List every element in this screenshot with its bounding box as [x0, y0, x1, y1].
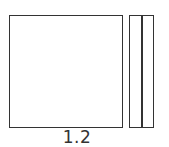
side-view-divider [141, 15, 143, 128]
front-view-square [9, 15, 123, 128]
dimension-label: 1.2 [40, 127, 114, 147]
